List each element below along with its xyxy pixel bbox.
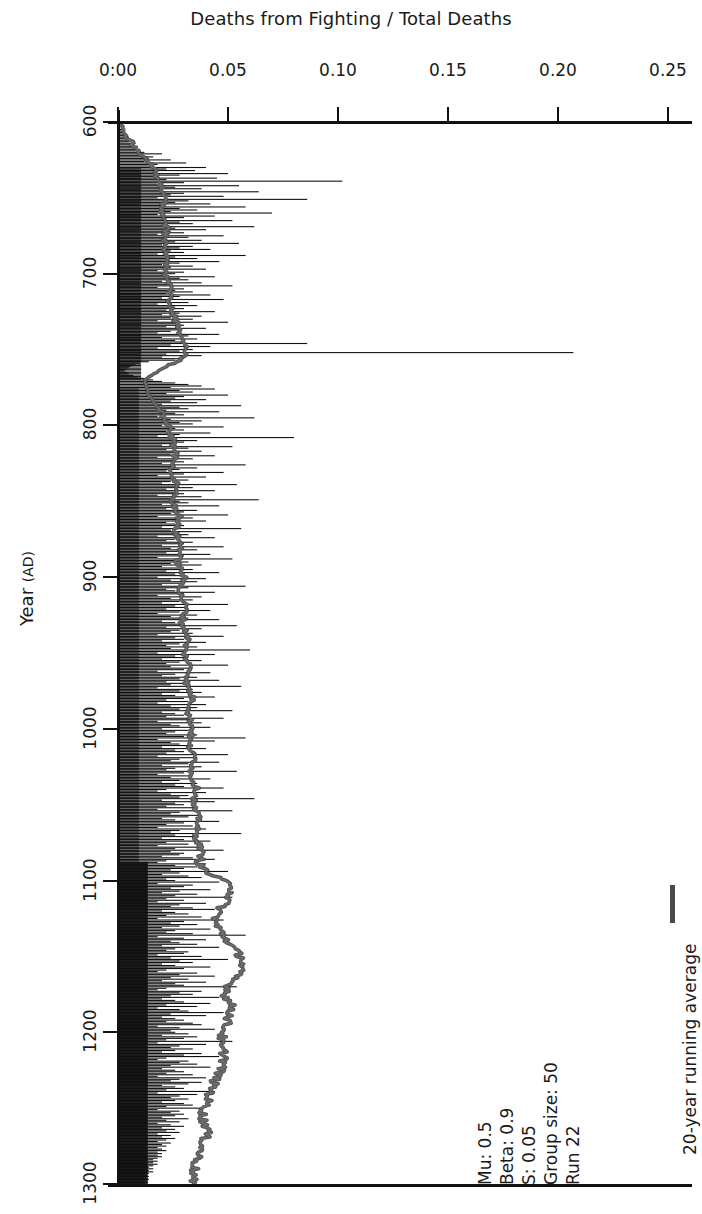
chart-figure: Deaths from Fighting / Total Deaths 0:00… xyxy=(0,0,702,1214)
legend-line-marker xyxy=(670,885,675,923)
annotation-line: Beta: 0.9 xyxy=(497,1108,517,1185)
annotation-line: Group size: 50 xyxy=(541,1062,561,1185)
legend: 20-year running average xyxy=(0,0,702,1214)
legend-label: 20-year running average xyxy=(680,944,700,1155)
annotation-line: S: 0.05 xyxy=(519,1125,539,1185)
annotation-line: Mu: 0.5 xyxy=(475,1121,495,1185)
annotation-line: Run 22 xyxy=(563,1125,583,1185)
